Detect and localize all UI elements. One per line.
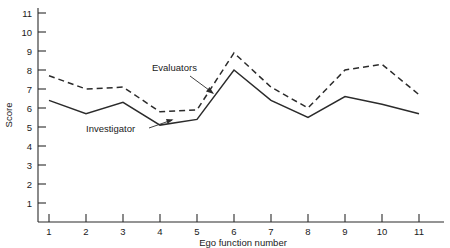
y-tick-label: 4 — [27, 141, 32, 152]
annotation-label-investigator: Investigator — [86, 123, 135, 134]
y-tick-4: 4 — [27, 141, 46, 152]
y-tick-11: 11 — [22, 8, 46, 19]
annotation-evaluators: Evaluators — [152, 62, 214, 94]
x-tick-label: 1 — [46, 226, 51, 237]
x-tick-7: 7 — [268, 214, 273, 237]
x-tick-9: 9 — [342, 214, 347, 237]
x-tick-4: 4 — [157, 214, 162, 237]
y-tick-8: 8 — [27, 65, 46, 76]
y-tick-label: 1 — [27, 198, 32, 209]
y-tick-3: 3 — [27, 160, 46, 171]
y-tick-6: 6 — [27, 103, 46, 114]
y-tick-label: 9 — [27, 46, 32, 57]
y-tick-label: 10 — [21, 27, 32, 38]
series-line-investigator — [49, 70, 419, 125]
y-tick-label: 11 — [22, 8, 32, 19]
y-tick-label: 8 — [27, 65, 32, 76]
x-tick-label: 9 — [342, 226, 347, 237]
y-axis-title: Score — [3, 103, 14, 128]
y-tick-9: 9 — [27, 46, 46, 57]
x-tick-5: 5 — [194, 214, 199, 237]
y-tick-5: 5 — [27, 122, 46, 133]
y-tick-2: 2 — [27, 179, 46, 190]
y-tick-label: 2 — [27, 179, 32, 190]
y-tick-10: 10 — [21, 27, 46, 38]
y-tick-label: 7 — [27, 84, 32, 95]
line-chart: 11 10 9 8 7 6 — [0, 0, 450, 248]
y-tick-1: 1 — [27, 198, 46, 209]
x-tick-label: 6 — [231, 226, 236, 237]
x-tick-label: 5 — [194, 226, 199, 237]
x-tick-8: 8 — [305, 214, 310, 237]
y-tick-label: 5 — [27, 122, 32, 133]
x-tick-label: 3 — [120, 226, 125, 237]
x-tick-label: 4 — [157, 226, 162, 237]
series-line-evaluators — [49, 53, 419, 112]
x-tick-label: 8 — [305, 226, 310, 237]
x-tick-6: 6 — [231, 214, 236, 237]
x-axis-title: Ego function number — [199, 237, 287, 248]
y-tick-label: 6 — [27, 103, 32, 114]
x-tick-label: 11 — [414, 226, 424, 237]
annotation-investigator: Investigator — [86, 119, 174, 134]
x-axis-ticks: 1 2 3 4 5 6 7 — [46, 214, 424, 237]
annotation-label-evaluators: Evaluators — [152, 62, 197, 73]
x-tick-label: 7 — [268, 226, 273, 237]
x-tick-2: 2 — [83, 214, 88, 237]
x-tick-11: 11 — [414, 214, 424, 237]
y-axis-ticks: 11 10 9 8 7 6 — [21, 8, 46, 209]
x-tick-label: 10 — [377, 226, 388, 237]
x-tick-label: 2 — [83, 226, 88, 237]
chart-canvas: 11 10 9 8 7 6 — [0, 0, 450, 248]
y-tick-label: 3 — [27, 160, 32, 171]
x-tick-10: 10 — [377, 214, 388, 237]
y-tick-7: 7 — [27, 84, 46, 95]
x-tick-3: 3 — [120, 214, 125, 237]
x-tick-1: 1 — [46, 214, 51, 237]
